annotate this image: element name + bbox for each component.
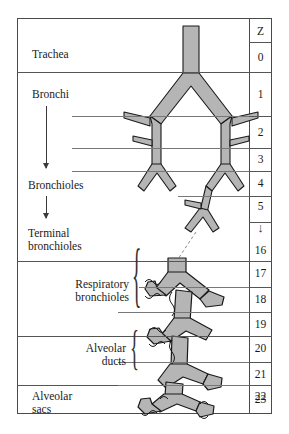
- z-rule-3: [249, 171, 272, 172]
- z-value-23: 23: [249, 394, 272, 406]
- leader-rule-4: [72, 171, 249, 172]
- z-rule-header: [249, 42, 272, 43]
- z-column-divider: [249, 18, 250, 414]
- z-value-1: 1: [249, 89, 272, 101]
- z-rule-21: [249, 385, 272, 386]
- z-rule-4: [249, 196, 272, 197]
- z-value-3: 3: [249, 154, 272, 166]
- bronchi-to-bronchioles-arrow-icon: [46, 106, 47, 168]
- z-value-2: 2: [249, 127, 272, 139]
- section-rule-terminal-resp: [17, 261, 272, 262]
- airway-generation-figure: Z 0 1 2 3 4 5 ↓ 16 17 18 19 20 21 22 23 …: [0, 0, 289, 434]
- alveolar-ducts-brace: {: [130, 325, 139, 373]
- z-rule-16: [249, 261, 272, 262]
- figure-frame: [17, 18, 272, 414]
- region-label-trachea: Trachea: [32, 48, 69, 61]
- z-column-header: Z: [249, 26, 272, 38]
- leader-rule-21: [118, 385, 249, 386]
- leader-rule-17: [139, 287, 249, 288]
- z-value-4: 4: [249, 178, 272, 190]
- z-value-16: 16: [249, 245, 272, 257]
- z-rule-0: [249, 72, 272, 73]
- leader-rule-3: [72, 148, 249, 149]
- bronchioles-to-terminal-arrow-icon: [46, 196, 47, 218]
- region-label-bronchioles: Bronchioles: [28, 179, 84, 192]
- z-value-21: 21: [249, 369, 272, 381]
- z-rule-2: [249, 148, 272, 149]
- region-label-bronchi: Bronchi: [32, 88, 69, 101]
- region-label-alveolar-ducts: Alveolar ducts: [60, 342, 126, 367]
- z-rule-19: [249, 336, 272, 337]
- z-ellipsis-arrow-icon: ↓: [249, 221, 272, 234]
- section-rule-trachea-bronchi: [17, 72, 272, 73]
- leader-rule-2: [72, 116, 249, 117]
- z-value-20: 20: [249, 343, 272, 355]
- region-label-alveolar-sacs: Alveolar sacs: [32, 390, 72, 415]
- z-value-5: 5: [249, 201, 272, 213]
- leader-rule-5: [178, 196, 249, 197]
- z-rule-1: [249, 116, 272, 117]
- z-value-17: 17: [249, 268, 272, 280]
- z-rule-20: [249, 362, 272, 363]
- z-value-18: 18: [249, 294, 272, 306]
- z-rule-17: [249, 287, 272, 288]
- z-rule-18: [249, 312, 272, 313]
- region-label-respiratory-bronchioles: Respiratory bronchioles: [57, 278, 129, 303]
- region-label-terminal-bronchioles: Terminal bronchioles: [28, 227, 82, 252]
- section-rule-resp-ducts: [17, 336, 272, 337]
- z-value-19: 19: [249, 319, 272, 331]
- z-value-0: 0: [249, 52, 272, 64]
- respiratory-bronchioles-brace: {: [132, 239, 141, 310]
